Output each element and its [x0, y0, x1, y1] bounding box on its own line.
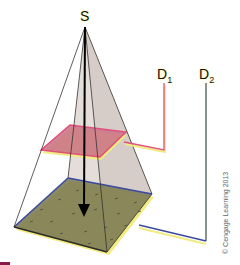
source-label: S: [80, 8, 89, 24]
pyramid-face-back: [68, 27, 152, 194]
distance-d1-label: D1: [157, 66, 172, 85]
distance-d2-label: D2: [199, 66, 214, 85]
copyright-notice: © Cengage Learning 2013: [222, 172, 229, 254]
d2-distance-line: [139, 83, 206, 244]
inverse-square-diagram: [0, 0, 240, 265]
